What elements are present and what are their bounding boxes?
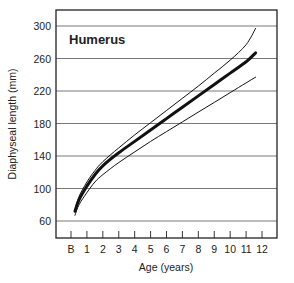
y-tick-label: 300	[33, 20, 51, 32]
y-tick-label: 140	[33, 150, 51, 162]
y-tick-label: 180	[33, 118, 51, 130]
x-axis-ticks: B123456789101112	[67, 231, 268, 255]
series-line-lower-bound	[75, 77, 256, 215]
x-tick-label: B	[67, 243, 74, 255]
x-tick-label: 12	[256, 243, 268, 255]
y-tick-label: 260	[33, 53, 51, 65]
y-tick-label: 100	[33, 183, 51, 195]
x-tick-label: 6	[164, 243, 170, 255]
humerus-growth-chart: 60100140180220260300 B123456789101112 Hu…	[0, 0, 294, 283]
y-axis-label: Diaphyseal length (mm)	[6, 69, 18, 180]
x-tick-label: 2	[100, 243, 106, 255]
x-tick-label: 5	[148, 243, 154, 255]
x-tick-label: 8	[195, 243, 201, 255]
x-tick-label: 11	[241, 243, 252, 255]
x-tick-label: 4	[132, 243, 138, 255]
x-tick-label: 7	[179, 243, 185, 255]
x-tick-label: 9	[211, 243, 217, 255]
x-axis-label: Age (years)	[139, 261, 193, 273]
chart-title: Humerus	[69, 32, 125, 47]
y-tick-label: 60	[39, 215, 51, 227]
x-tick-label: 3	[116, 243, 122, 255]
gridlines	[56, 26, 277, 221]
y-tick-label: 220	[33, 85, 51, 97]
y-axis-ticks: 60100140180220260300	[33, 20, 51, 227]
data-series	[75, 28, 256, 215]
x-tick-label: 1	[84, 243, 90, 255]
x-tick-label: 10	[224, 243, 236, 255]
